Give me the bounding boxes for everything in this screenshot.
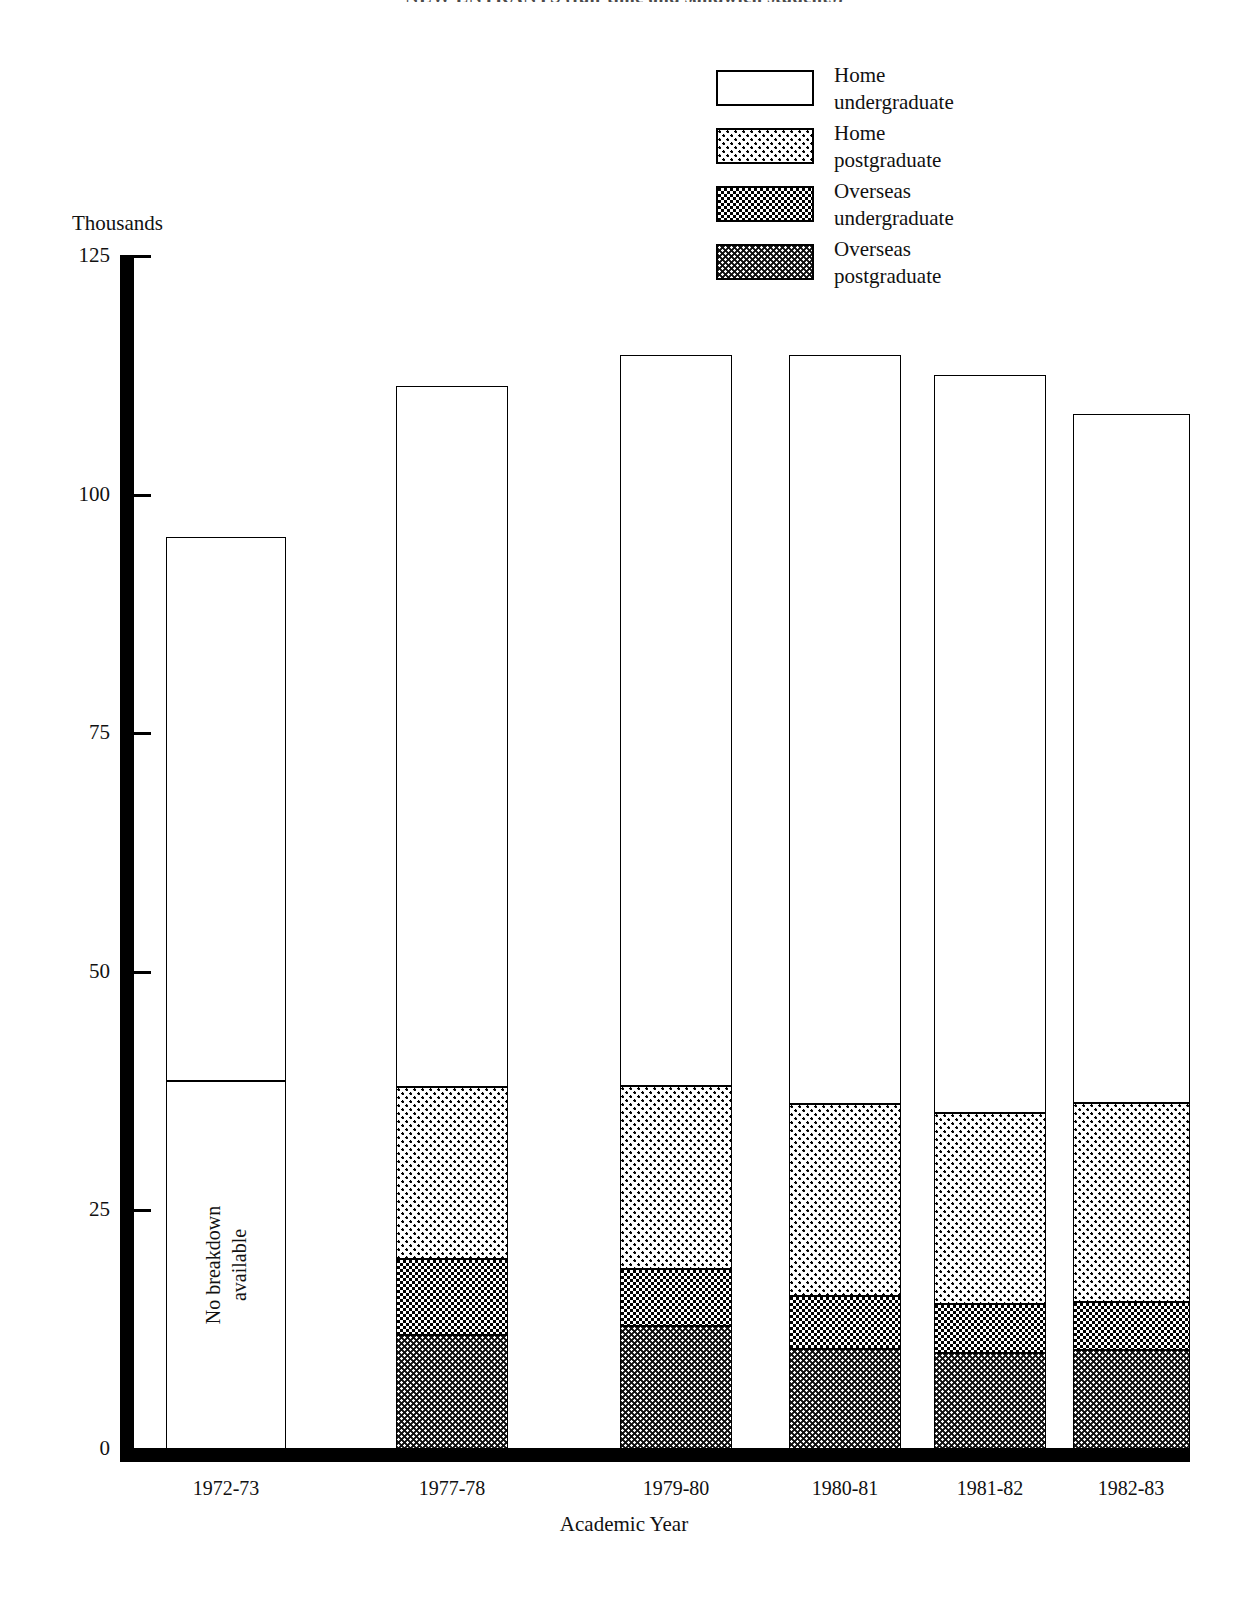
y-axis-tick	[134, 1448, 151, 1451]
bar-segment[interactable]	[934, 1304, 1046, 1353]
x-axis-title: Academic Year	[0, 1512, 1248, 1537]
bar-segment[interactable]	[1073, 414, 1190, 1103]
bar-segment[interactable]	[396, 386, 508, 1087]
page-title: NEW ENTRANTS (full-time and sandwich stu…	[0, 0, 1248, 2]
bar-segment[interactable]	[934, 1113, 1046, 1304]
legend-swatch-overseas-undergraduate	[716, 186, 814, 222]
x-axis-tick-label: 1972-73	[136, 1477, 316, 1500]
legend-item-label: Home undergraduate	[834, 62, 1114, 116]
no-breakdown-region: No breakdown available	[166, 1081, 286, 1449]
y-axis-line	[120, 255, 134, 1462]
legend-item: Overseas postgraduate	[716, 240, 1116, 298]
bar-segment[interactable]	[620, 355, 732, 1086]
y-axis-tick	[134, 732, 151, 735]
y-axis-tick	[134, 1209, 151, 1212]
bar-segment[interactable]	[934, 375, 1046, 1113]
bar-segment[interactable]	[620, 1326, 732, 1449]
bar-segment[interactable]	[166, 537, 286, 1081]
chart-legend: Home undergraduateHome postgraduateOvers…	[716, 66, 1116, 298]
bar-1977-78[interactable]	[396, 386, 508, 1449]
bar-segment[interactable]	[789, 1104, 901, 1296]
no-breakdown-annotation: No breakdown available	[200, 1135, 252, 1395]
legend-item: Overseas undergraduate	[716, 182, 1116, 240]
y-axis-tick-label: 100	[50, 482, 110, 507]
legend-item-label: Home postgraduate	[834, 120, 1114, 174]
y-axis-tick	[134, 494, 151, 497]
x-axis-line	[120, 1448, 1190, 1462]
bar-segment[interactable]	[620, 1269, 732, 1326]
y-axis-tick-label: 75	[50, 720, 110, 745]
y-axis-tick	[134, 255, 151, 258]
bar-1982-83[interactable]	[1073, 414, 1190, 1449]
x-axis-tick-label: 1977-78	[362, 1477, 542, 1500]
legend-item-label: Overseas undergraduate	[834, 178, 1114, 232]
bar-segment[interactable]	[789, 355, 901, 1104]
chart-root: NEW ENTRANTS (full-time and sandwich stu…	[0, 0, 1248, 1600]
legend-item-label: Overseas postgraduate	[834, 236, 1114, 290]
x-axis-tick-label: 1979-80	[586, 1477, 766, 1500]
legend-item: Home undergraduate	[716, 66, 1116, 124]
bar-segment[interactable]	[620, 1086, 732, 1268]
bar-1972-73[interactable]: No breakdown available	[166, 537, 286, 1449]
y-axis-unit-label: Thousands	[72, 211, 163, 236]
legend-swatch-home-undergraduate	[716, 70, 814, 106]
x-axis-tick-label: 1982-83	[1041, 1477, 1221, 1500]
bar-segment[interactable]	[396, 1335, 508, 1449]
bar-segment[interactable]	[789, 1296, 901, 1348]
bar-1981-82[interactable]	[934, 375, 1046, 1449]
legend-item: Home postgraduate	[716, 124, 1116, 182]
bar-segment[interactable]	[396, 1259, 508, 1335]
bar-1979-80[interactable]	[620, 355, 732, 1449]
bar-1980-81[interactable]	[789, 355, 901, 1449]
legend-swatch-overseas-postgraduate	[716, 244, 814, 280]
legend-swatch-home-postgraduate	[716, 128, 814, 164]
y-axis-tick-label: 50	[50, 959, 110, 984]
y-axis-tick-label: 125	[50, 243, 110, 268]
bar-segment[interactable]	[1073, 1103, 1190, 1302]
bar-segment[interactable]	[1073, 1350, 1190, 1449]
bar-segment[interactable]	[396, 1087, 508, 1259]
y-axis-tick-label: 0	[50, 1436, 110, 1461]
y-axis-tick	[134, 971, 151, 974]
bar-segment[interactable]	[789, 1349, 901, 1449]
bar-segment[interactable]	[1073, 1302, 1190, 1350]
y-axis-tick-label: 25	[50, 1197, 110, 1222]
bar-segment[interactable]	[934, 1353, 1046, 1449]
